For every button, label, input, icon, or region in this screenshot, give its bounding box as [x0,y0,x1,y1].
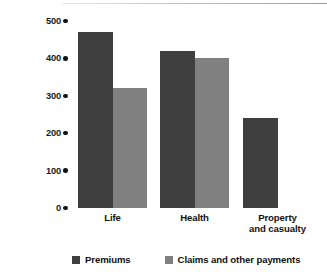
y-tick-dot-0 [63,206,68,211]
category-label-1: Health [148,212,241,223]
y-tick-100: 100 [36,166,68,176]
legend-swatch-premiums [72,256,80,264]
legend-item-premiums: Premiums [72,254,131,265]
y-tick-0: 0 [36,203,68,213]
y-tick-400: 400 [36,53,68,63]
y-tick-dot-400 [63,56,68,61]
y-tick-300: 300 [36,91,68,101]
chart-legend: Premiums Claims and other payments [0,254,327,272]
legend-label-premiums: Premiums [85,254,131,265]
bar-claims-1 [195,58,230,208]
y-tick-dot-500 [63,19,68,24]
y-tick-label-200: 200 [46,128,61,138]
y-tick-label-100: 100 [46,166,61,176]
y-axis-ticks: 5004003002001000 [36,0,68,279]
y-tick-dot-300 [63,94,68,99]
legend-swatch-claims [165,256,173,264]
bar-claims-0 [113,88,148,208]
y-tick-label-0: 0 [56,203,61,213]
y-tick-label-300: 300 [46,91,61,101]
category-label-0: Life [66,212,159,223]
category-label-2: Property and casualty [231,212,324,235]
y-tick-200: 200 [36,128,68,138]
y-tick-dot-100 [63,168,68,173]
y-tick-500: 500 [36,16,68,26]
bar-chart: Income and expenditure (billions of doll… [0,0,327,279]
y-tick-dot-200 [63,131,68,136]
bar-premiums-1 [160,51,195,208]
bar-premiums-0 [78,32,113,208]
y-tick-label-500: 500 [46,16,61,26]
top-rule-divider [62,3,327,4]
legend-item-claims: Claims and other payments [165,254,301,265]
bar-premiums-2 [243,118,278,208]
legend-label-claims: Claims and other payments [178,254,301,265]
y-tick-label-400: 400 [46,53,61,63]
plot-area [70,21,285,208]
